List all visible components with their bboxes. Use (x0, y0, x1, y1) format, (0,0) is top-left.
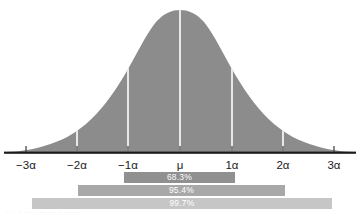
tick-3sigma (333, 146, 334, 152)
interval-bar-95-label: 95.4% (169, 185, 194, 196)
tick--3sigma (25, 146, 26, 152)
tick-1sigma (231, 146, 232, 152)
interval-bar-95: 95.4% (78, 185, 285, 196)
axis-label-minus-1-sigma: −1α (118, 158, 138, 172)
interval-bar-997: 99.7% (32, 198, 332, 209)
divider-plus-2-sigma (282, 0, 284, 160)
interval-bar-68-label: 68.3% (167, 172, 192, 183)
tick-2sigma (282, 146, 283, 152)
divider-mu (179, 0, 181, 160)
clipped-caption-strip: · · · ·· · ·· ·· · ·· ·· (0, 211, 360, 220)
axis-label-1-sigma: 1α (225, 158, 238, 172)
axis-label-mu: μ (177, 158, 184, 172)
axis-label-minus-3-sigma: −3α (16, 158, 36, 172)
clipped-caption-text: · · · ·· · ·· ·· · ·· ·· (6, 211, 80, 217)
bell-curve-plot (0, 0, 360, 160)
tick-mu (179, 146, 180, 152)
divider-minus-1-sigma (127, 0, 129, 160)
interval-bar-group: 68.3% 95.4% 99.7% (0, 172, 360, 210)
axis-label-2-sigma: 2α (276, 158, 289, 172)
interval-bar-68: 68.3% (124, 172, 235, 183)
axis-label-minus-2-sigma: −2α (67, 158, 87, 172)
tick--2sigma (76, 146, 77, 152)
bell-curve-svg (0, 0, 360, 160)
divider-plus-1-sigma (231, 0, 233, 160)
axis-label-3-sigma: 3α (327, 158, 340, 172)
tick--1sigma (127, 146, 128, 152)
divider-minus-2-sigma (76, 0, 78, 160)
interval-bar-997-label: 99.7% (169, 198, 194, 209)
normal-distribution-figure: −3α −2α −1α μ 1α 2α 3α 68.3% 95.4% 99.7%… (0, 0, 360, 220)
